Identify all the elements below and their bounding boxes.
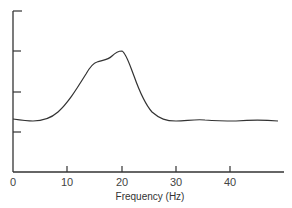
x-tick-label: 40 — [224, 176, 236, 188]
x-axis-title: Frequency (Hz) — [116, 191, 185, 202]
x-tick-label: 10 — [61, 176, 73, 188]
x-tick-labels: 0 10 20 30 40 — [10, 176, 236, 188]
x-tick-label: 0 — [10, 176, 16, 188]
x-tick-label: 20 — [116, 176, 128, 188]
x-tick-label: 30 — [170, 176, 182, 188]
frequency-spectrum-chart: 0 10 20 30 40 Frequency (Hz) — [0, 0, 292, 208]
y-ticks — [13, 11, 22, 132]
spectrum-line — [13, 51, 278, 121]
x-ticks — [67, 166, 230, 172]
